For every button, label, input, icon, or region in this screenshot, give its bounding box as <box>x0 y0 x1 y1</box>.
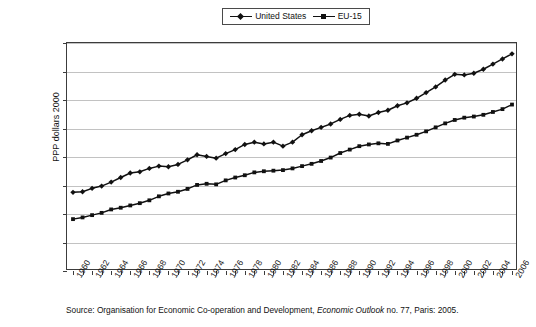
data-point-marker <box>318 125 323 130</box>
data-point-marker <box>81 216 85 220</box>
data-series-layer <box>67 43 518 271</box>
chart-figure: United States EU-15 PPP dollars 2000 05,… <box>0 0 536 327</box>
data-point-marker <box>376 141 380 145</box>
data-point-marker <box>386 142 390 146</box>
data-point-marker <box>366 113 371 118</box>
data-point-marker <box>491 110 495 114</box>
data-point-marker <box>319 159 323 163</box>
data-point-marker <box>472 115 476 119</box>
data-point-marker <box>310 162 314 166</box>
data-point-marker <box>99 183 104 188</box>
data-point-marker <box>252 139 257 144</box>
data-point-marker <box>453 118 457 122</box>
data-point-marker <box>186 187 190 191</box>
data-point-marker <box>415 133 419 137</box>
data-point-marker <box>471 71 476 76</box>
data-point-marker <box>194 152 199 157</box>
data-point-marker <box>328 121 333 126</box>
data-point-marker <box>329 156 333 160</box>
data-point-marker <box>462 72 467 77</box>
data-point-marker <box>80 189 85 194</box>
data-point-marker <box>108 179 113 184</box>
data-point-marker <box>272 169 276 173</box>
data-point-marker <box>338 151 342 155</box>
y-axis-tick <box>63 271 67 272</box>
data-point-marker <box>242 142 247 147</box>
data-point-marker <box>404 100 409 105</box>
data-point-marker <box>357 112 362 117</box>
data-point-marker <box>396 139 400 143</box>
data-point-marker <box>509 51 514 56</box>
data-point-marker <box>233 176 237 180</box>
data-point-marker <box>128 204 132 208</box>
data-point-marker <box>300 164 304 168</box>
data-point-marker <box>309 128 314 133</box>
data-point-marker <box>500 56 505 61</box>
data-point-marker <box>443 121 447 125</box>
data-point-marker <box>424 129 428 133</box>
legend-entry-united-states: United States <box>230 12 306 21</box>
data-point-marker <box>147 198 151 202</box>
data-point-marker <box>490 61 495 66</box>
data-point-marker <box>385 108 390 113</box>
data-point-marker <box>501 107 505 111</box>
data-point-marker <box>70 190 75 195</box>
legend-entry-eu-15: EU-15 <box>313 12 362 21</box>
data-point-marker <box>481 67 486 72</box>
legend-label-united-states: United States <box>255 12 306 21</box>
y-axis-title: PPP dollars 2000 <box>51 62 61 192</box>
data-point-marker <box>481 113 485 117</box>
data-point-marker <box>128 170 133 175</box>
data-point-marker <box>89 186 94 191</box>
data-point-marker <box>262 169 266 173</box>
data-point-marker <box>90 213 94 217</box>
data-point-marker <box>261 141 266 146</box>
data-point-marker <box>280 143 285 148</box>
data-point-marker <box>224 178 228 182</box>
data-point-marker <box>348 148 352 152</box>
data-point-marker <box>357 144 361 148</box>
source-prefix: Source: Organisation for Economic Co-ope… <box>66 305 317 315</box>
data-point-marker <box>156 163 161 168</box>
data-point-marker <box>109 208 113 212</box>
data-point-marker <box>367 143 371 147</box>
data-point-marker <box>138 201 142 205</box>
data-point-marker <box>223 151 228 156</box>
legend-label-eu-15: EU-15 <box>338 12 362 21</box>
data-point-marker <box>205 182 209 186</box>
data-point-marker <box>119 206 123 210</box>
source-publication: Economic Outlook <box>317 305 384 315</box>
source-suffix: no. 77, Paris: 2005. <box>384 305 458 315</box>
data-point-marker <box>175 162 180 167</box>
data-point-marker <box>137 169 142 174</box>
data-point-marker <box>167 192 171 196</box>
data-point-marker <box>434 125 438 129</box>
plot-area <box>66 42 517 270</box>
data-point-marker <box>214 182 218 186</box>
data-point-marker <box>376 110 381 115</box>
data-point-marker <box>338 117 343 122</box>
data-point-marker <box>233 147 238 152</box>
data-point-marker <box>395 103 400 108</box>
data-point-marker <box>71 217 75 221</box>
data-point-marker <box>213 155 218 160</box>
diamond-marker-icon <box>230 12 252 21</box>
data-point-marker <box>252 170 256 174</box>
data-point-marker <box>462 116 466 120</box>
data-point-marker <box>204 154 209 159</box>
data-point-marker <box>281 168 285 172</box>
data-point-marker <box>271 139 276 144</box>
data-point-marker <box>195 183 199 187</box>
data-point-marker <box>185 157 190 162</box>
data-point-marker <box>347 113 352 118</box>
data-point-marker <box>176 190 180 194</box>
source-note: Source: Organisation for Economic Co-ope… <box>66 305 458 315</box>
data-point-marker <box>157 194 161 198</box>
data-point-marker <box>243 173 247 177</box>
data-point-marker <box>100 211 104 215</box>
data-point-marker <box>291 167 295 171</box>
square-marker-icon <box>313 12 335 21</box>
chart-legend: United States EU-15 <box>222 8 370 25</box>
data-point-marker <box>405 136 409 140</box>
data-point-marker <box>166 164 171 169</box>
